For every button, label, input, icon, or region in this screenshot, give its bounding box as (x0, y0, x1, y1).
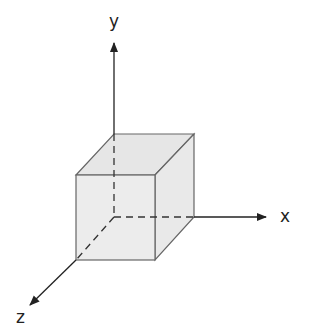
y-axis-label: y (109, 11, 119, 31)
x-axis-label: x (280, 206, 290, 226)
coordinate-diagram: y x z (0, 0, 312, 327)
cube (76, 134, 194, 260)
z-axis-label: z (16, 307, 25, 327)
z-axis (30, 260, 76, 305)
